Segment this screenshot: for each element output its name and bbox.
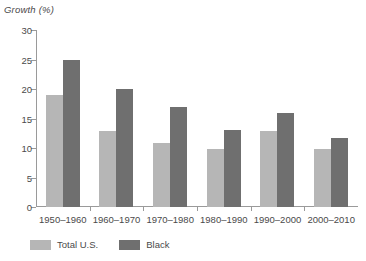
y-tick-label: 20 (21, 84, 32, 95)
legend-swatch-total-us (30, 240, 51, 250)
chart-legend: Total U.S. Black (30, 239, 169, 250)
x-tick-label: 1980–1990 (200, 214, 248, 225)
legend-swatch-black (119, 240, 140, 250)
bar (170, 107, 187, 207)
legend-item-black: Black (119, 239, 169, 250)
x-tick-label: 1970–1980 (146, 214, 194, 225)
bar (277, 113, 294, 207)
bar (116, 89, 133, 207)
bar (153, 143, 170, 207)
bar (207, 149, 224, 207)
x-tick-label: 1960–1970 (93, 214, 141, 225)
x-tick-mark (304, 207, 305, 211)
x-tick-mark (251, 207, 252, 211)
legend-label-total-us: Total U.S. (57, 239, 98, 250)
y-tick-label: 15 (21, 113, 32, 124)
x-tick-mark (90, 207, 91, 211)
bar (314, 149, 331, 207)
bar-group: 1960–1970 (90, 30, 144, 207)
bar (260, 131, 277, 207)
x-tick-mark (143, 207, 144, 211)
y-axis-title: Growth (%) (4, 4, 54, 15)
bar-group: 1950–1960 (36, 30, 90, 207)
x-tick-label: 1990–2000 (254, 214, 302, 225)
x-tick-mark (197, 207, 198, 211)
y-tick-label: 25 (21, 54, 32, 65)
bar (63, 60, 80, 208)
legend-label-black: Black (146, 239, 169, 250)
y-tick-label: 10 (21, 143, 32, 154)
x-tick-label: 1950–1960 (39, 214, 87, 225)
bar-group: 1980–1990 (197, 30, 251, 207)
y-tick-label: 5 (27, 172, 32, 183)
y-tick-label: 30 (21, 25, 32, 36)
bar (99, 131, 116, 207)
bar-group: 2000–2010 (304, 30, 358, 207)
plot-area: 051015202530 1950–19601960–19701970–1980… (36, 30, 358, 207)
bar-group: 1970–1980 (143, 30, 197, 207)
growth-bar-chart: Growth (%) 051015202530 1950–19601960–19… (0, 0, 366, 261)
legend-item-total-us: Total U.S. (30, 239, 98, 250)
bar-group: 1990–2000 (251, 30, 305, 207)
bar (224, 130, 241, 207)
bar (331, 138, 348, 207)
x-tick-label: 2000–2010 (307, 214, 355, 225)
y-tick-label: 0 (27, 202, 32, 213)
bar (46, 95, 63, 207)
